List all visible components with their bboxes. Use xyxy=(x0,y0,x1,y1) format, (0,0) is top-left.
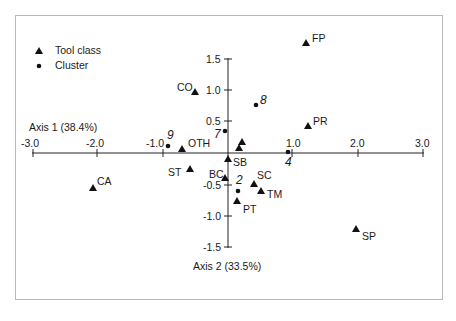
point-unlabeled-1 xyxy=(238,138,246,145)
point-fp xyxy=(302,39,310,46)
label-tm: TM xyxy=(267,188,282,200)
label-sc: SC xyxy=(257,169,272,181)
cluster-9 xyxy=(166,144,171,149)
label-fp: FP xyxy=(312,32,325,44)
cluster-2 xyxy=(236,189,241,194)
point-sp xyxy=(352,225,360,232)
x-tick: -1.0 xyxy=(146,137,164,149)
point-unlabeled-2 xyxy=(235,144,243,151)
cluster-label-9: 9 xyxy=(167,128,174,142)
label-ca: CA xyxy=(97,175,112,187)
legend-label-cluster: Cluster xyxy=(55,59,89,71)
label-oth: OTH xyxy=(188,137,210,149)
y-axis-title: Axis 2 (33.5%) xyxy=(193,260,261,272)
y-tick: 0.5 xyxy=(206,115,221,127)
label-sp: SP xyxy=(362,230,376,242)
x-tick: 1.0 xyxy=(286,137,301,149)
triangle-marker-icon xyxy=(35,47,43,54)
point-pr xyxy=(304,122,312,129)
cluster-points: 8 7 9 4 2 xyxy=(166,93,292,193)
cluster-4 xyxy=(286,150,291,155)
point-pt xyxy=(233,197,241,204)
label-pt: PT xyxy=(243,203,257,215)
tool-class-points: FP CO PR OTH SB ST BC SC TM PT CA SP xyxy=(89,32,376,242)
point-st xyxy=(186,165,194,172)
label-sb: SB xyxy=(233,156,247,168)
y-tick: 1.5 xyxy=(206,53,221,65)
cluster-7 xyxy=(223,129,228,134)
y-tick: -0.5 xyxy=(203,179,221,191)
point-oth xyxy=(178,145,186,152)
y-tick: -1.0 xyxy=(203,210,221,222)
x-tick: 2.0 xyxy=(350,137,365,149)
point-sc xyxy=(250,180,258,187)
label-bc: BC xyxy=(209,168,224,180)
label-st: ST xyxy=(168,166,182,178)
cluster-8 xyxy=(254,103,259,108)
y-tick: 1.0 xyxy=(206,84,221,96)
point-tm xyxy=(257,187,265,194)
point-sb xyxy=(224,155,232,162)
legend: Tool class Cluster xyxy=(35,44,101,71)
cluster-label-8: 8 xyxy=(260,93,267,107)
x-tick: -2.0 xyxy=(86,137,104,149)
circle-marker-icon xyxy=(37,64,42,69)
x-tick-labels: -3.0 -2.0 -1.0 1.0 2.0 3.0 xyxy=(21,137,430,149)
y-tick: -1.5 xyxy=(203,241,221,253)
cluster-label-7: 7 xyxy=(214,127,222,141)
cluster-label-4: 4 xyxy=(285,155,292,169)
point-ca xyxy=(89,184,97,191)
scatter-plot: Tool class Cluster -3.0 -2.0 -1.0 1.0 2.… xyxy=(0,0,456,321)
cluster-label-2: 2 xyxy=(235,173,243,187)
label-pr: PR xyxy=(313,115,328,127)
x-axis-title: Axis 1 (38.4%) xyxy=(29,121,97,133)
label-co: CO xyxy=(177,81,193,93)
legend-label-tool-class: Tool class xyxy=(55,44,101,56)
x-tick: -3.0 xyxy=(21,137,39,149)
x-tick: 3.0 xyxy=(415,137,430,149)
